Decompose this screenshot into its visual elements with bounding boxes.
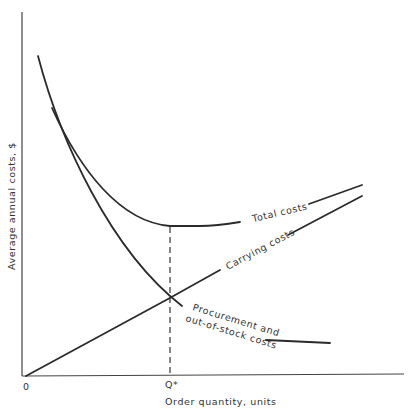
origin-label: 0 (23, 381, 30, 392)
procurement-costs-curve (38, 56, 182, 306)
x-axis-title: Order quantity, units (165, 396, 277, 407)
x-axis (22, 374, 404, 376)
q-star-label: Q* (165, 379, 178, 390)
total-costs-curve (52, 108, 240, 226)
total-costs-label: Total costs (250, 201, 308, 225)
y-axis-title: Average annual costs, $ (6, 142, 17, 270)
carrying-costs-label: Carrying costs (224, 226, 297, 272)
eoq-cost-chart: Total costs Carrying costs Procurement a… (0, 0, 412, 410)
